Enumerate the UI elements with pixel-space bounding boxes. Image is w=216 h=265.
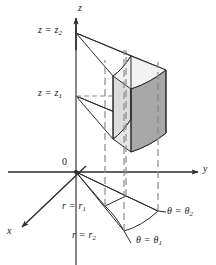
r-inner-bound-label: r = r1 — [62, 201, 86, 211]
r-outer-bound-label: r = r2 — [72, 230, 96, 240]
z-lower-bound-label: z = z1 — [38, 88, 62, 98]
z2-ray-inner-far — [76, 33, 131, 56]
z2-ray-inner-near — [76, 33, 113, 76]
tick-theta1 — [124, 231, 131, 243]
x-axis-label: x — [7, 226, 12, 236]
origin-point — [74, 170, 78, 174]
theta-upper-bound-label: θ = θ2 — [167, 206, 193, 216]
tick-theta2 — [158, 211, 166, 212]
origin-label: 0 — [62, 157, 67, 167]
z-upper-bound-label: z = z2 — [38, 25, 62, 35]
theta-lower-bound-label: θ = θ1 — [136, 235, 162, 245]
cylindrical-coordinate-diagram — [0, 0, 216, 265]
y-axis-label: y — [203, 164, 208, 174]
figure-root: z y x 0 z = z2 z = z1 r = r1 r = r2 θ = … — [0, 0, 216, 265]
ray-to-r2-theta2 — [76, 172, 158, 211]
base-projection-region — [105, 196, 158, 231]
z1-ray-inner-near — [76, 96, 113, 139]
z-axis-label: z — [78, 3, 82, 13]
radial-rays-from-origin — [76, 172, 158, 231]
volume-element-solid — [113, 56, 166, 152]
base-outer-arc — [124, 211, 158, 231]
